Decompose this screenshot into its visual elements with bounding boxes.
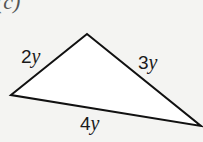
side-label-bottom: 4y [80, 113, 99, 133]
side-label-left: 2y [21, 46, 40, 66]
side-label-right: 3y [138, 52, 157, 72]
triangle-diagram [0, 0, 203, 142]
